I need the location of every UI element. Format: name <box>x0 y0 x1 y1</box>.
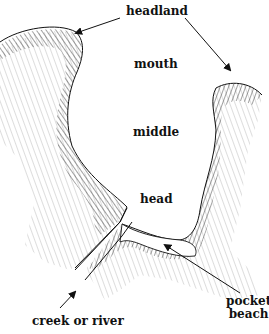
label-pocket-beach: pocket beach <box>226 295 269 321</box>
headland-arrow-right <box>185 18 230 70</box>
label-pocket: pocket <box>226 294 269 308</box>
label-headland: headland <box>126 5 188 18</box>
bay-illustration <box>0 0 269 334</box>
label-creek-or-river: creek or river <box>32 315 124 328</box>
left-headland-landmass <box>0 27 127 270</box>
label-beach: beach <box>229 307 269 321</box>
creek-arrow <box>60 292 75 308</box>
label-mouth: mouth <box>134 58 178 71</box>
headland-arrow-left <box>76 18 120 33</box>
label-middle: middle <box>133 126 179 139</box>
right-headland-landmass <box>85 83 262 300</box>
label-head: head <box>140 193 173 206</box>
bay-diagram: headland mouth middle head creek or rive… <box>0 0 269 334</box>
